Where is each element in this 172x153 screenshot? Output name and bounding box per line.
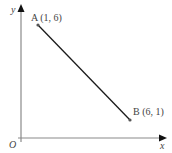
y-axis-label: y [10,4,16,15]
y-axis-arrow-icon [18,4,25,12]
x-axis-label: x [159,140,165,151]
y-axis [18,4,25,142]
origin-label: O [9,139,16,150]
point-b [128,118,131,121]
segment-ab [38,25,130,120]
x-axis [18,135,167,142]
point-a [36,23,39,26]
point-a-label: A (1, 6) [31,12,62,24]
point-b-label: B (6, 1) [133,106,164,118]
coordinate-diagram: y x O A (1, 6) B (6, 1) [0,0,172,153]
